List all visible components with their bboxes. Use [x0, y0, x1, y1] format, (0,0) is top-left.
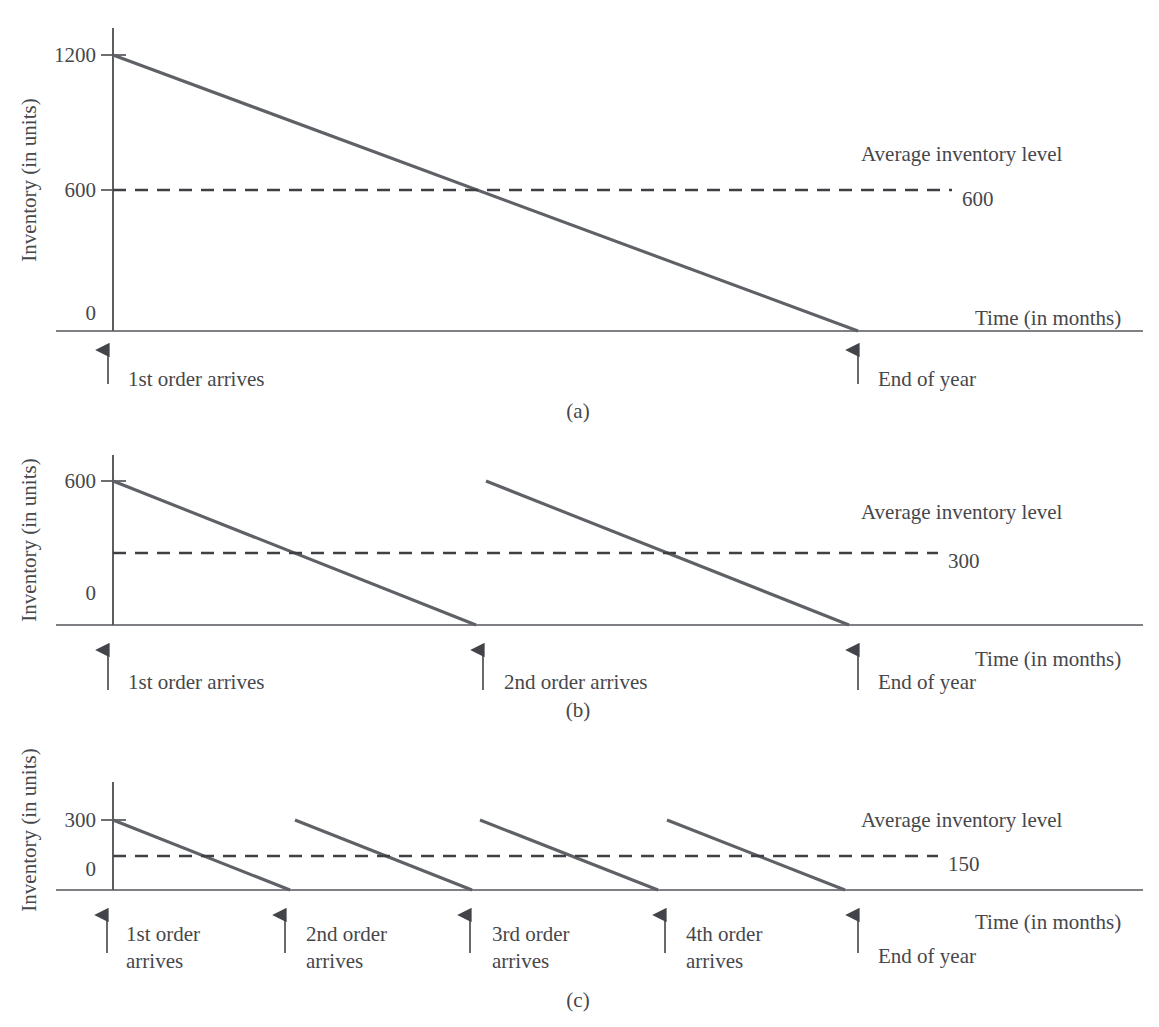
panel-c-ytick-0: 0	[86, 857, 97, 881]
panel-b-ytick-600: 600	[65, 469, 97, 493]
panel-b-order-label-2: 2nd order arrives	[504, 670, 647, 694]
panel-c-y-axis-label: Inventory (in units)	[17, 748, 41, 911]
panel-c-order-label-1-line1: 1st order	[126, 922, 200, 946]
panel-c-order-label-1-line2: arrives	[126, 949, 183, 973]
panel-b-end-of-year-label: End of year	[878, 670, 976, 694]
panel-a-tag: (a)	[566, 399, 589, 423]
panel-b: Inventory (in units) 600 0 Average inven…	[17, 455, 1143, 722]
panel-a-y-axis-label: Inventory (in units)	[17, 98, 41, 261]
panel-c: Inventory (in units) 300 0 Average inven…	[17, 748, 1143, 1012]
panel-a-average-title: Average inventory level	[861, 142, 1063, 166]
panel-b-order-label-1: 1st order arrives	[128, 670, 264, 694]
panel-b-y-axis-label: Inventory (in units)	[17, 458, 41, 621]
figure-canvas: Inventory (in units) 1200 600 0 Average …	[0, 0, 1159, 1027]
panel-c-x-axis-label: Time (in months)	[975, 910, 1121, 934]
panel-b-x-axis-label: Time (in months)	[975, 647, 1121, 671]
panel-a-order-label-1: 1st order arrives	[128, 367, 264, 391]
panel-a-ytick-600: 600	[65, 178, 97, 202]
panel-c-average-value: 150	[948, 852, 980, 876]
panel-c-order-label-4-line1: 4th order	[686, 922, 762, 946]
panel-b-average-title: Average inventory level	[861, 500, 1063, 524]
panel-a-average-value: 600	[962, 187, 994, 211]
panel-a-ytick-1200: 1200	[54, 43, 96, 67]
panel-b-average-value: 300	[948, 549, 980, 573]
panel-c-average-title: Average inventory level	[861, 808, 1063, 832]
panel-b-ytick-0: 0	[86, 581, 97, 605]
panel-a-end-of-year-label: End of year	[878, 367, 976, 391]
panel-c-order-label-2-line2: arrives	[306, 949, 363, 973]
panel-c-tag: (c)	[566, 988, 589, 1012]
inventory-figure: Inventory (in units) 1200 600 0 Average …	[0, 0, 1159, 1027]
panel-a: Inventory (in units) 1200 600 0 Average …	[17, 28, 1143, 423]
panel-c-end-of-year-label: End of year	[878, 944, 976, 968]
panel-c-order-label-4-line2: arrives	[686, 949, 743, 973]
panel-c-order-label-3-line2: arrives	[492, 949, 549, 973]
panel-b-tag: (b)	[566, 698, 591, 722]
panel-a-inventory-line	[113, 55, 858, 331]
panel-a-ytick-0: 0	[86, 301, 97, 325]
panel-a-x-axis-label: Time (in months)	[975, 306, 1121, 330]
panel-c-ytick-300: 300	[65, 808, 97, 832]
panel-c-order-label-2-line1: 2nd order	[306, 922, 387, 946]
panel-c-order-label-3-line1: 3rd order	[492, 922, 570, 946]
